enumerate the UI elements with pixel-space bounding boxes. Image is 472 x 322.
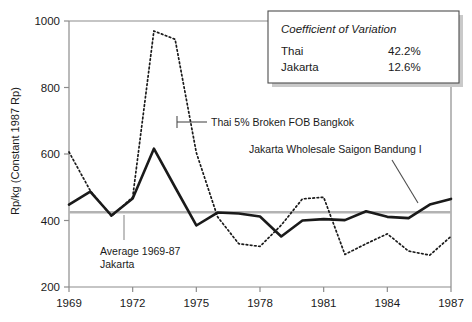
y-tick-label: 200: [41, 281, 60, 293]
legend-row-label-thai: Thai: [281, 45, 303, 57]
price-comparison-line-chart: 2004006008001000 19691972197519781981198…: [0, 0, 472, 322]
y-tick-label: 600: [41, 148, 60, 160]
x-tick-label: 1975: [184, 297, 210, 309]
x-tick-label: 1972: [120, 297, 146, 309]
x-tick-label: 1987: [438, 297, 464, 309]
x-tick-label: 1969: [56, 297, 82, 309]
x-tick-label: 1981: [311, 297, 337, 309]
y-axis-ticks: 2004006008001000: [34, 15, 69, 293]
y-axis-title: Rp/kg (Constant 1987 Rp): [9, 87, 21, 215]
average-label-line2: Jakarta: [100, 258, 135, 270]
average-annotation: Average 1969-87 Jakarta: [100, 215, 181, 270]
x-tick-label: 1978: [247, 297, 273, 309]
jakarta-annotation: Jakarta Wholesale Saigon Bandung I: [249, 143, 422, 203]
legend-row-value-thai: 42.2%: [388, 45, 421, 57]
average-label-line1: Average 1969-87: [100, 245, 181, 257]
y-tick-label: 1000: [34, 15, 60, 27]
x-axis-ticks: 1969197219751978198119841987: [56, 287, 464, 309]
legend-row-label-jakarta: Jakarta: [281, 61, 319, 73]
legend-row-value-jakarta: 12.6%: [388, 61, 421, 73]
legend-title: Coefficient of Variation: [281, 23, 396, 35]
chart-container: 2004006008001000 19691972197519781981198…: [0, 0, 472, 322]
thai-annotation: Thai 5% Broken FOB Bangkok: [177, 116, 355, 128]
thai-series-label: Thai 5% Broken FOB Bangkok: [211, 116, 355, 128]
jakarta-leader-line: [392, 160, 418, 203]
y-tick-label: 400: [41, 215, 60, 227]
x-tick-label: 1984: [375, 297, 401, 309]
y-tick-label: 800: [41, 82, 60, 94]
coefficient-of-variation-box: Coefficient of Variation Thai 42.2% Jaka…: [268, 11, 463, 87]
jakarta-series-label: Jakarta Wholesale Saigon Bandung I: [249, 143, 422, 155]
